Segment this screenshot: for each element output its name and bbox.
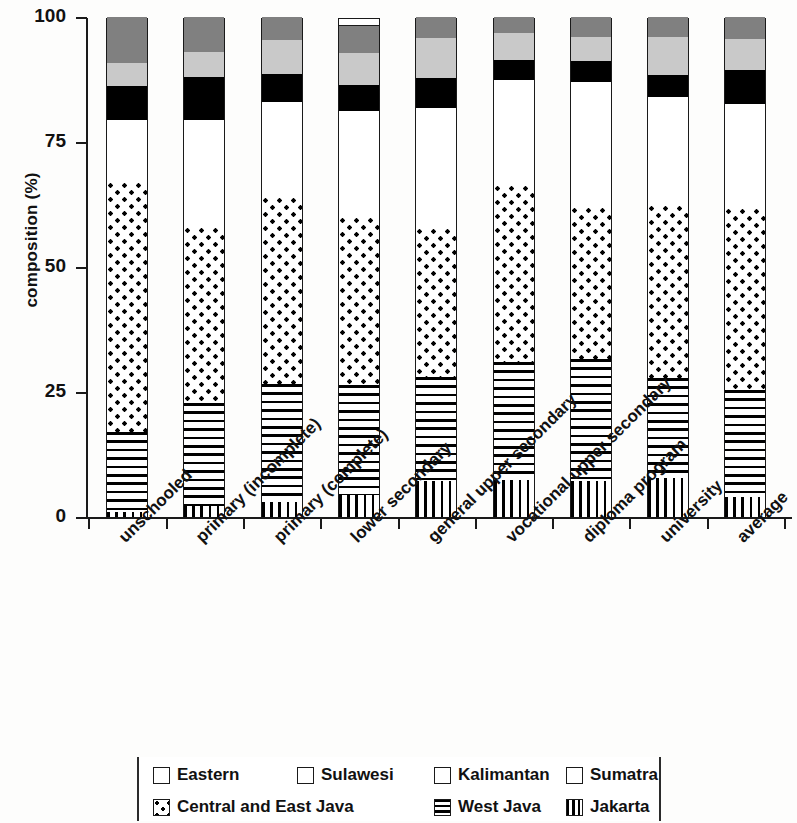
bar-segment bbox=[648, 17, 688, 37]
bar-segment bbox=[494, 17, 534, 33]
bar-segment bbox=[725, 208, 765, 390]
legend-label: Jakarta bbox=[590, 797, 650, 817]
legend-swatch-westjava-icon bbox=[434, 799, 451, 816]
bar-segment bbox=[184, 120, 224, 227]
legend-swatch-kalimantan-icon bbox=[434, 767, 451, 784]
bar-segment bbox=[494, 33, 534, 60]
y-tick-mark bbox=[76, 142, 87, 144]
bar-segment bbox=[339, 217, 379, 385]
legend-label: Sulawesi bbox=[321, 765, 394, 785]
bar-segment bbox=[571, 82, 611, 207]
bar-segment bbox=[184, 52, 224, 77]
bar-segment bbox=[107, 182, 147, 432]
bar-segment bbox=[725, 104, 765, 208]
legend-row: EasternSulawesiKalimantanSumatra bbox=[139, 759, 659, 791]
bar-segment bbox=[494, 185, 534, 362]
bar-segment bbox=[648, 37, 688, 75]
bar-segment bbox=[648, 97, 688, 205]
legend-swatch-sumatra-icon bbox=[566, 767, 583, 784]
chart-page: composition (%) 1007550250 unschooledpri… bbox=[0, 0, 797, 823]
legend-item-westjava: West Java bbox=[434, 791, 541, 823]
legend-item-sulawesi: Sulawesi bbox=[297, 759, 394, 791]
bar-segment bbox=[416, 108, 456, 228]
x-tick-mark bbox=[475, 518, 477, 529]
legend-label: Kalimantan bbox=[458, 765, 550, 785]
x-tick-mark bbox=[784, 518, 786, 529]
x-tick-mark bbox=[629, 518, 631, 529]
bar-unschooled bbox=[106, 18, 148, 518]
chart-legend: EasternSulawesiKalimantanSumatraCentral … bbox=[137, 757, 661, 821]
bar-segment bbox=[107, 432, 147, 512]
bar-average bbox=[724, 18, 766, 518]
y-axis-title: composition (%) bbox=[22, 140, 42, 340]
legend-item-jakarta: Jakarta bbox=[566, 791, 650, 823]
bar-segment bbox=[262, 102, 302, 197]
bar-segment bbox=[494, 60, 534, 80]
bar-segment bbox=[648, 205, 688, 378]
legend-label: West Java bbox=[458, 797, 541, 817]
legend-row: Central and East JavaWest JavaJakarta bbox=[139, 791, 659, 823]
bar-segment bbox=[339, 111, 379, 217]
bar-segment bbox=[339, 53, 379, 85]
y-tick-label: 75 bbox=[18, 130, 66, 152]
bar-segment bbox=[725, 70, 765, 104]
legend-label: Sumatra bbox=[590, 765, 658, 785]
legend-item-kalimantan: Kalimantan bbox=[434, 759, 550, 791]
bar-segment bbox=[184, 403, 224, 506]
x-tick-mark bbox=[88, 518, 90, 529]
y-tick-label: 100 bbox=[18, 5, 66, 27]
y-tick-label: 0 bbox=[18, 505, 66, 527]
bar-segment bbox=[262, 17, 302, 40]
bar-segment bbox=[262, 74, 302, 102]
y-tick-mark bbox=[76, 392, 87, 394]
bar-segment bbox=[416, 17, 456, 38]
stacked-bar-chart: composition (%) 1007550250 unschooledpri… bbox=[0, 0, 797, 560]
legend-item-eastern: Eastern bbox=[153, 759, 239, 791]
bar-segment bbox=[184, 227, 224, 403]
x-tick-mark bbox=[707, 518, 709, 529]
bar-segment bbox=[571, 37, 611, 61]
bar-segment bbox=[107, 86, 147, 120]
legend-item-cejava: Central and East Java bbox=[153, 791, 354, 823]
bar-segment bbox=[184, 77, 224, 120]
bar-segment bbox=[494, 80, 534, 185]
bar-segment bbox=[416, 78, 456, 108]
y-tick-label: 25 bbox=[18, 380, 66, 402]
bar-segment bbox=[184, 17, 224, 52]
legend-label: Central and East Java bbox=[177, 797, 354, 817]
legend-swatch-sulawesi-icon bbox=[297, 767, 314, 784]
bar-segment bbox=[107, 120, 147, 182]
y-tick-mark bbox=[76, 517, 87, 519]
bar-segment bbox=[262, 40, 302, 74]
legend-item-sumatra: Sumatra bbox=[566, 759, 658, 791]
x-tick-mark bbox=[552, 518, 554, 529]
legend-label: Eastern bbox=[177, 765, 239, 785]
segment-divider bbox=[339, 25, 379, 27]
bar-segment bbox=[725, 39, 765, 70]
bar-segment bbox=[725, 17, 765, 39]
bar-segment bbox=[107, 17, 147, 63]
bar-segment bbox=[648, 75, 688, 97]
bar-segment bbox=[416, 38, 456, 78]
y-tick-label: 50 bbox=[18, 255, 66, 277]
legend-swatch-jakarta-icon bbox=[566, 799, 583, 816]
bar-segment bbox=[416, 228, 456, 377]
bar-segment bbox=[571, 17, 611, 37]
bar-primary-incomplete- bbox=[183, 18, 225, 518]
legend-swatch-eastern-icon bbox=[153, 767, 170, 784]
y-tick-mark bbox=[76, 267, 87, 269]
bar-segment bbox=[725, 390, 765, 497]
y-tick-mark bbox=[76, 17, 87, 19]
x-tick-mark bbox=[243, 518, 245, 529]
bar-segment bbox=[339, 26, 379, 53]
bar-segment bbox=[571, 207, 611, 359]
legend-swatch-cejava-icon bbox=[153, 799, 170, 816]
x-tick-mark bbox=[320, 518, 322, 529]
bar-segment bbox=[339, 85, 379, 111]
bar-segment bbox=[262, 197, 302, 384]
bar-segment bbox=[571, 61, 611, 82]
x-tick-mark bbox=[398, 518, 400, 529]
x-tick-mark bbox=[166, 518, 168, 529]
bar-segment bbox=[107, 63, 147, 86]
